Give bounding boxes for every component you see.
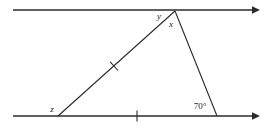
angle-label-70-degrees: 70° xyxy=(194,101,207,111)
angle-label-z: z xyxy=(49,104,54,114)
angle-label-x: x xyxy=(168,19,173,29)
angle-label-y: y xyxy=(156,11,161,21)
bottom-ray-arrow-icon xyxy=(252,112,260,120)
top-ray-arrow-icon xyxy=(252,6,260,14)
geometry-diagram: y x z 70° xyxy=(0,0,272,134)
geometry-canvas: y x z 70° xyxy=(0,0,272,134)
left-slant-side xyxy=(58,11,175,116)
